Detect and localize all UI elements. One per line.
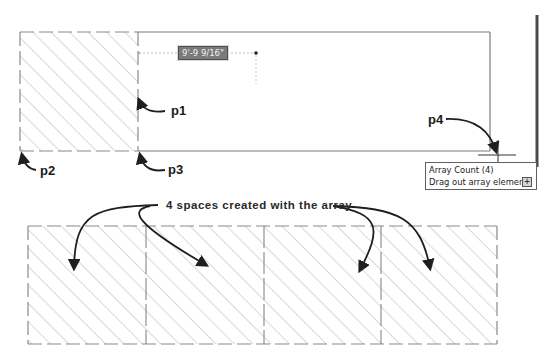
p4-arrow [446,119,496,151]
expand-options-icon[interactable]: + [522,177,532,187]
p3-arrow [140,155,165,170]
p2-arrow [22,155,36,170]
p1-arrow [139,100,165,112]
top-original-space [20,32,138,151]
array-count-tooltip: Array Count (4) Drag out array elements … [425,162,537,190]
point-label-p3: p3 [168,163,183,176]
array-callout-text: 4 spaces created with the array [166,200,352,212]
point-label-p2: p2 [40,164,55,177]
dimension-input-box[interactable]: 9'-9 9/16" [178,46,228,60]
tooltip-prompt: Drag out array elements or [429,176,533,188]
point-label-p4: p4 [428,113,443,126]
array-result [28,226,497,344]
point-label-p1: p1 [171,104,186,117]
tooltip-title: Array Count (4) [429,164,533,176]
